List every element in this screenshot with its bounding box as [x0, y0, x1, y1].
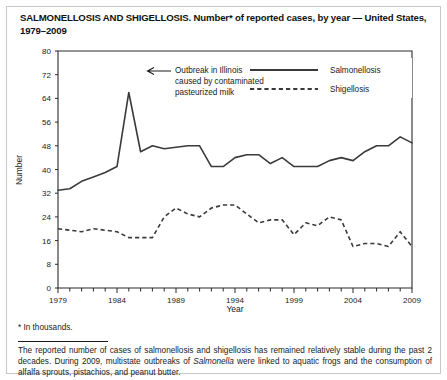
x-tick-label: 2004 — [344, 296, 362, 305]
y-tick-label: 16 — [42, 237, 51, 246]
annotation-line-1: Outbreak in Illinois — [175, 66, 242, 75]
y-tick-label: 72 — [42, 71, 51, 80]
x-tick-label: 1979 — [49, 296, 67, 305]
annotation-line-2: caused by contaminated — [175, 77, 264, 86]
y-tick-label: 32 — [42, 189, 51, 198]
footnote-thousands: * In thousands. — [18, 322, 430, 333]
chart-page: SALMONELLOSIS AND SHIGELLOSIS. Number* o… — [0, 0, 447, 380]
series-line-salmonellosis — [58, 92, 412, 190]
series-line-shigellosis — [58, 205, 412, 246]
y-axis-ticks: 08162432404856647280 — [42, 47, 58, 293]
y-tick-label: 56 — [42, 118, 51, 127]
y-axis-title: Number — [14, 155, 24, 185]
legend-label-shigellosis: Shigellosis — [330, 85, 369, 94]
annotation-arrow-icon — [148, 68, 172, 75]
x-axis-ticks: 1979198419891994199920042009 — [49, 288, 421, 305]
x-tick-label: 1999 — [285, 296, 303, 305]
x-tick-label: 1984 — [108, 296, 126, 305]
x-axis-title: Year — [226, 304, 243, 314]
annotation-line-3: pasteurized milk — [175, 88, 235, 97]
y-tick-label: 80 — [42, 47, 51, 56]
y-tick-label: 64 — [42, 94, 51, 103]
legend-label-salmonellosis: Salmonellosis — [330, 66, 381, 75]
x-tick-label: 2009 — [403, 296, 421, 305]
y-tick-label: 48 — [42, 142, 51, 151]
source-italic-term: Salmonella — [193, 357, 234, 366]
x-tick-label: 1989 — [167, 296, 185, 305]
footnote-divider — [18, 341, 108, 342]
y-tick-label: 0 — [47, 284, 52, 293]
y-tick-label: 8 — [47, 260, 52, 269]
source-note: The reported number of cases of salmonel… — [18, 345, 432, 379]
y-tick-label: 24 — [42, 213, 51, 222]
y-tick-label: 40 — [42, 166, 51, 175]
